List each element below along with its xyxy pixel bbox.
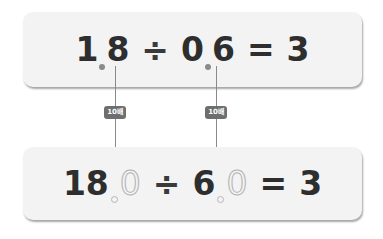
hollow-decimal-point [111,196,118,203]
equals-sign: = [247,30,275,69]
divisor-whole-part: 0 [181,30,204,69]
dividend-whole-part: 1 [75,30,98,69]
scaled-equation: 18 0 ÷ 6 0 = 3 [23,147,362,220]
original-equation: 1 8 ÷ 0 6 = 3 [23,12,362,87]
multiply-10-badge: 10배 [104,106,126,119]
divide-sign: ÷ [153,164,181,203]
dividend-whole-part: 18 [63,164,109,203]
decimal-point [205,64,211,70]
hollow-decimal-point [217,196,224,203]
multiply-10-badge: 10배 [205,106,227,119]
decimal-point [99,64,105,70]
hollow-zero: 0 [120,164,141,203]
dividend-fraction-part: 8 [106,30,129,69]
hollow-zero: 0 [226,164,247,203]
equals-sign: = [259,164,287,203]
result: 3 [299,164,322,203]
original-equation-panel: 1 8 ÷ 0 6 = 3 [23,12,362,87]
scaled-equation-panel: 18 0 ÷ 6 0 = 3 [23,147,362,220]
divisor-whole-part: 6 [193,164,216,203]
result: 3 [287,30,310,69]
divisor-fraction-part: 6 [212,30,235,69]
divide-sign: ÷ [141,30,169,69]
